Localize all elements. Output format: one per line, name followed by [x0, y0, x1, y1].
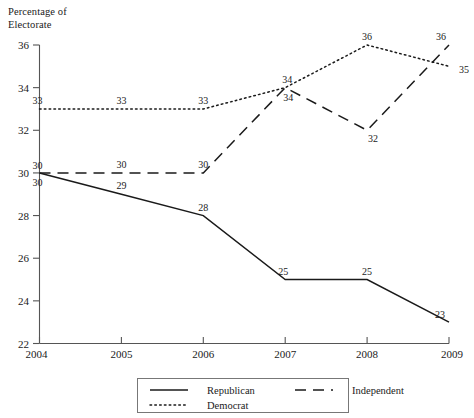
x-tick-label: 2008 [356, 348, 379, 360]
data-point-label: 30 [116, 159, 126, 170]
data-point-label: 32 [368, 133, 378, 144]
series-line-republican [40, 173, 450, 322]
x-axis: 200420052006200720082009 [26, 337, 464, 360]
data-point-label: 33 [116, 95, 126, 106]
y-tick-label: 26 [18, 252, 30, 264]
data-point-label: 23 [435, 309, 445, 320]
data-point-label: 30 [33, 177, 43, 188]
x-tick-label: 2005 [110, 348, 133, 360]
y-tick-label: 34 [18, 82, 30, 94]
data-point-label: 33 [198, 95, 208, 106]
y-tick-label: 32 [18, 124, 29, 136]
legend-label-independent: Independent [352, 385, 404, 396]
y-tick-label: 28 [18, 210, 30, 222]
legend-label-republican: Republican [207, 385, 256, 396]
legend: RepublicanIndependentDemocrat [138, 379, 404, 413]
data-point-label: 34 [282, 74, 292, 85]
y-axis-title: Percentage of Electorate [8, 6, 67, 31]
line-chart: Percentage of Electorate 222426283032343… [0, 0, 474, 418]
series-line-independent [40, 45, 450, 173]
data-point-label: 25 [362, 266, 372, 277]
data-point-label: 29 [116, 180, 126, 191]
x-tick-label: 2004 [26, 348, 49, 360]
data-point-label: 28 [198, 202, 208, 213]
data-point-label: 25 [278, 266, 288, 277]
data-point-label: 30 [33, 160, 43, 171]
data-point-label: 30 [198, 159, 208, 170]
x-tick-label: 2006 [192, 348, 215, 360]
y-axis: 2224262830323436 [18, 39, 40, 350]
data-point-label: 36 [436, 31, 446, 42]
data-point-label: 34 [283, 92, 293, 103]
y-tick-label: 36 [18, 39, 30, 51]
y-tick-label: 24 [18, 295, 30, 307]
x-tick-label: 2007 [274, 348, 297, 360]
data-point-label: 36 [362, 31, 372, 42]
legend-label-democrat: Democrat [207, 400, 248, 411]
x-tick-label: 2009 [441, 348, 464, 360]
data-point-label: 35 [459, 64, 469, 75]
series-line-democrat [40, 45, 450, 109]
series-layer [40, 45, 450, 322]
data-point-label: 33 [33, 95, 43, 106]
plot-area: 2224262830323436 20042005200620072008200… [0, 0, 474, 418]
y-tick-label: 30 [18, 167, 30, 179]
point-label-layer: 302928252523303030343236333333343635 [33, 31, 470, 320]
